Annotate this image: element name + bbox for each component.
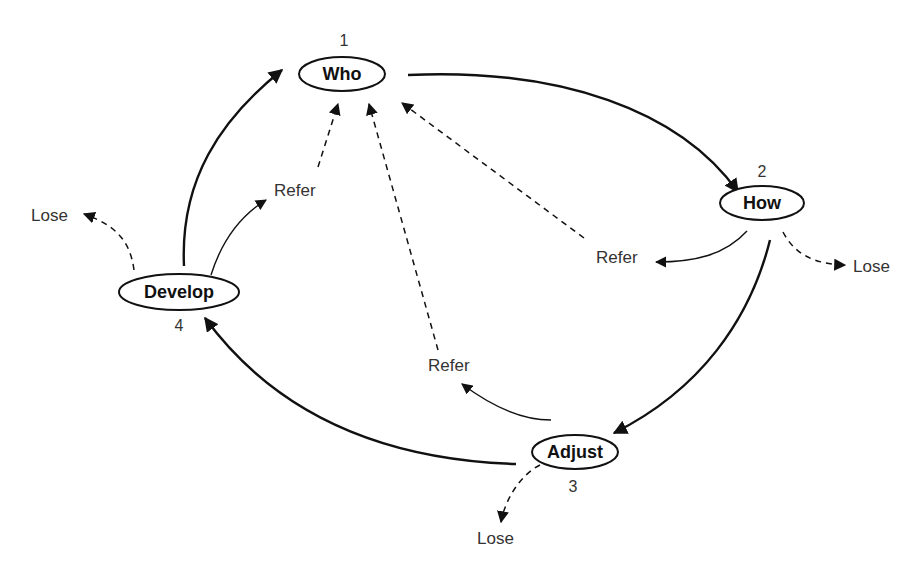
sales-cycle-diagram: Who 1 How 2 Adjust 3 Develop 4 Refer Ref… [0, 0, 921, 573]
node-adjust-label: Adjust [547, 442, 603, 462]
edge-how-to-adjust [614, 240, 770, 433]
node-adjust-number: 3 [569, 478, 578, 495]
refer-label-adjust: Refer [428, 356, 470, 375]
refer-label-how: Refer [596, 248, 638, 267]
node-develop-number: 4 [175, 317, 184, 334]
node-adjust: Adjust 3 [532, 435, 618, 495]
lose-label-how: Lose [853, 257, 890, 276]
node-who-label: Who [323, 64, 362, 84]
edge-how-to-refer [656, 231, 747, 262]
refer-label-develop: Refer [274, 181, 316, 200]
edge-how-to-lose [783, 232, 845, 265]
edge-adjust-to-develop [205, 318, 516, 464]
node-who-number: 1 [340, 32, 349, 49]
edge-who-to-how [408, 74, 738, 192]
lose-label-develop: Lose [31, 206, 68, 225]
node-how-number: 2 [758, 163, 767, 180]
edge-adjust-to-refer [462, 384, 551, 420]
node-how-label: How [743, 193, 782, 213]
edge-refer-adjust-to-who [369, 104, 438, 350]
node-how: How 2 [720, 163, 804, 220]
lose-label-adjust: Lose [477, 529, 514, 548]
edge-adjust-to-lose [501, 465, 540, 522]
edge-refer-develop-to-who [318, 104, 338, 167]
node-develop: Develop 4 [119, 274, 239, 334]
edge-develop-to-who [184, 70, 282, 266]
node-who: Who 1 [299, 32, 385, 91]
edge-refer-how-to-who [402, 103, 584, 238]
node-develop-label: Develop [144, 282, 214, 302]
edge-develop-to-refer [211, 200, 266, 275]
edge-develop-to-lose [84, 214, 134, 270]
